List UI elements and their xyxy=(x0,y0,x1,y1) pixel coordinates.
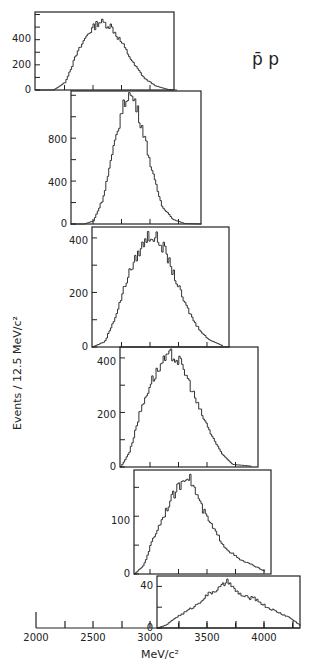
xtick-2000: 2000 xyxy=(23,632,48,643)
p4-ytick-0: 0 xyxy=(110,461,116,472)
x-axis xyxy=(36,612,300,628)
y-axis-label: Events / 12.5 MeV/c² xyxy=(11,316,24,430)
p6-ytick-40: 40 xyxy=(140,580,153,591)
xtick-3000: 3000 xyxy=(137,632,162,643)
histogram-curves xyxy=(35,15,301,628)
p5-ytick-0: 0 xyxy=(124,568,130,579)
histogram-panel-4 xyxy=(120,349,251,467)
p2-ytick-800: 800 xyxy=(48,134,67,145)
chart-title: p̄ p xyxy=(252,49,279,69)
panel-5-frame xyxy=(134,470,271,574)
p3-ytick-400: 400 xyxy=(69,235,88,246)
p2-ytick-0: 0 xyxy=(61,218,67,229)
p4-ytick-400: 400 xyxy=(97,356,116,367)
p1-ytick-0: 0 xyxy=(25,84,31,95)
histogram-panel-5 xyxy=(134,474,265,574)
p1-ytick-200: 200 xyxy=(12,59,31,70)
p4-ytick-200: 200 xyxy=(97,409,116,420)
xtick-3500: 3500 xyxy=(194,632,219,643)
panel-4-frame xyxy=(120,347,258,467)
p1-ytick-400: 400 xyxy=(12,33,31,44)
histogram-panel-1 xyxy=(36,19,177,90)
p5-ytick-100: 100 xyxy=(111,515,130,526)
p2-ytick-400: 400 xyxy=(48,177,67,188)
stacked-histogram-chart: p̄ p Events / 12.5 MeV/c² 0 200 400 0 40… xyxy=(0,0,310,667)
p3-ytick-200: 200 xyxy=(69,288,88,299)
histogram-panel-6 xyxy=(157,579,301,628)
histogram-panel-3 xyxy=(92,232,223,348)
panel-1-frame xyxy=(35,12,174,90)
xtick-2500: 2500 xyxy=(80,632,105,643)
histogram-panel-2 xyxy=(70,93,201,224)
xtick-4000: 4000 xyxy=(251,632,276,643)
p3-ytick-0: 0 xyxy=(82,341,88,352)
x-axis-label: MeV/c² xyxy=(141,648,179,661)
